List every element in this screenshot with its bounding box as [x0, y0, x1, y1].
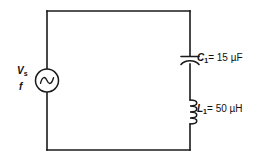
circuit-diagram: C1= 15 µF L1= 50 µH Vs f [0, 0, 261, 161]
inductor-icon [190, 100, 197, 124]
ac-voltage-source-icon [36, 69, 59, 92]
capacitor-label: C1= 15 µF [197, 53, 243, 63]
inductor-value-text: = 50 µH [207, 103, 243, 114]
circuit-schematic-svg [0, 0, 261, 161]
source-frequency-label: f [19, 82, 22, 92]
inductor-label: L1= 50 µH [197, 104, 243, 114]
source-voltage-label: Vs [17, 66, 28, 76]
capacitor-subscript: 1 [204, 57, 208, 64]
capacitor-designator: C1 [197, 52, 208, 63]
source-voltage-symbol: V [17, 65, 24, 76]
capacitor-value-text: = 15 µF [208, 52, 242, 63]
inductor-subscript: 1 [203, 108, 207, 115]
source-voltage-subscript: s [24, 70, 28, 77]
inductor-designator: L1 [197, 103, 207, 114]
